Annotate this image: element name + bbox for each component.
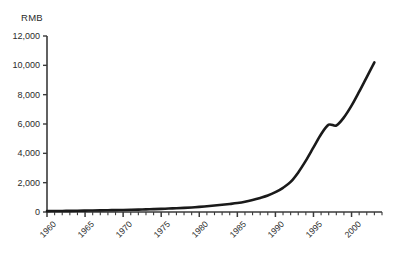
data-series-line: [47, 62, 374, 211]
y-axis-tick-label: 10,000: [0, 60, 40, 70]
y-axis-tick-label: 12,000: [0, 31, 40, 41]
line-chart-plot: [0, 0, 398, 255]
y-axis-tick-label: 2,000: [0, 178, 40, 188]
y-axis-tick-label: 8,000: [0, 90, 40, 100]
y-axis-tick-label: 6,000: [0, 119, 40, 129]
chart-container: RMB 02,0004,0006,0008,00010,00012,000 19…: [0, 0, 398, 255]
y-axis-tick-label: 0: [0, 207, 40, 217]
chart-tick-marks: [43, 36, 382, 217]
y-axis-tick-label: 4,000: [0, 148, 40, 158]
